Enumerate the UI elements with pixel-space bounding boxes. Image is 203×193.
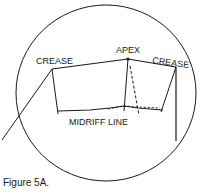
label-crease-left: CREASE [36, 56, 73, 66]
label-midriff-line: MIDRIFF LINE [69, 117, 128, 127]
dart-left [52, 69, 58, 114]
label-crease-right: CREASE [152, 55, 190, 70]
dart-apex-solid [124, 59, 128, 111]
figure-5a-diagram: CREASE APEX CREASE MIDRIFF LINE Figure 5… [0, 0, 203, 193]
side-seam-left [2, 69, 52, 140]
dart-right [161, 67, 176, 112]
detail-circle [16, 5, 196, 181]
label-apex: APEX [116, 45, 140, 55]
midriff-line [58, 106, 163, 111]
figure-caption: Figure 5A. [3, 177, 49, 188]
